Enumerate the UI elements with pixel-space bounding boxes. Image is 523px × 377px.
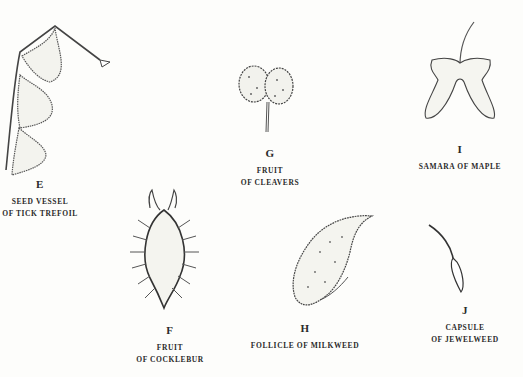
figure-letter: G (230, 147, 310, 159)
caption-e: E SEED VESSEL OF TICK TREFOIL (0, 178, 80, 220)
illustration-jewelweed (425, 222, 475, 301)
cleavers-drawing (237, 62, 297, 137)
caption-h: H FOLLICLE OF MILKWEED (245, 322, 365, 352)
caption-line: CAPSULE (415, 322, 515, 334)
caption-f: F FRUIT OF COCKLEBUR (125, 324, 215, 366)
illustration-cleavers (237, 62, 297, 141)
tick-trefoil-drawing (0, 20, 120, 180)
caption-j: J CAPSULE OF JEWELWEED (415, 304, 515, 346)
caption-line: FRUIT (230, 165, 310, 177)
caption-line: SAMARA OF MAPLE (405, 161, 515, 173)
caption-line: FOLLICLE OF MILKWEED (245, 340, 365, 352)
figure-letter: J (415, 304, 515, 316)
illustration-cocklebur (120, 188, 210, 322)
caption-i: I SAMARA OF MAPLE (405, 143, 515, 173)
caption-line: OF TICK TREFOIL (0, 208, 80, 220)
caption-line: OF CLEAVERS (230, 177, 310, 189)
illustration-tick-trefoil (0, 20, 120, 184)
maple-samara-drawing (402, 20, 512, 120)
figure-letter: E (0, 178, 80, 190)
caption-g: G FRUIT OF CLEAVERS (230, 147, 310, 189)
illustration-milkweed (280, 212, 380, 316)
figure-letter: I (405, 143, 515, 155)
caption-line: FRUIT (125, 342, 215, 354)
caption-line: OF JEWELWEED (415, 334, 515, 346)
caption-line: SEED VESSEL (0, 196, 80, 208)
caption-line: OF COCKLEBUR (125, 354, 215, 366)
figure-letter: F (125, 324, 215, 336)
milkweed-drawing (280, 212, 380, 312)
jewelweed-drawing (425, 222, 475, 297)
cocklebur-drawing (120, 188, 210, 318)
illustration-maple-samara (402, 20, 512, 124)
figure-letter: H (245, 322, 365, 334)
